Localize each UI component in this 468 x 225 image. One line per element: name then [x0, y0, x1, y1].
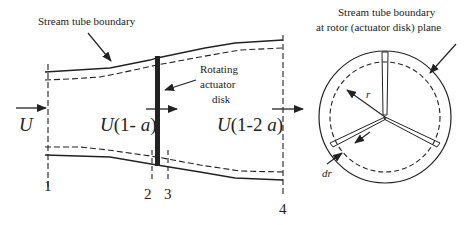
rotor-plane-label-line2: at rotor (actuator disk) plane	[316, 21, 441, 34]
station-3-label: 3	[164, 186, 172, 202]
disk-pointer-arrow-icon	[165, 80, 196, 90]
rotor-blades	[330, 52, 440, 147]
far-wake-velocity-label: U(1-2 a)	[217, 114, 283, 136]
disk-velocity-label: U(1- a)	[100, 114, 156, 136]
rotating-disk-label-line2: actuator	[200, 78, 236, 90]
rotor-plane-pointer-arrow-icon	[430, 44, 456, 73]
rotating-disk-label-line1: Rotating	[200, 63, 238, 75]
actuator-disk	[155, 56, 160, 166]
stream-tube-top-dashed	[45, 48, 283, 80]
radius-label: r	[366, 88, 371, 100]
station-2-label: 2	[144, 186, 152, 202]
upstream-velocity-label: U	[19, 114, 34, 135]
stream-tube-pointer-arrow-icon	[88, 33, 111, 61]
stream-tube-boundary-label: Stream tube boundary	[38, 15, 136, 27]
rotating-disk-label-line3: disk	[212, 93, 231, 105]
station-1-label: 1	[44, 178, 52, 194]
dr-outer-arrow-icon	[327, 153, 342, 164]
station-4-label: 4	[279, 201, 287, 217]
actuator-disk-diagram: Stream tube boundary 1 2 3 4 U U(1- a) R…	[0, 0, 468, 225]
dr-label: dr	[322, 167, 333, 179]
stream-tube-bottom-dashed	[45, 147, 283, 172]
stream-tube-top-boundary	[45, 40, 283, 72]
rotor-plane-label-line1: Stream tube boundary	[338, 6, 436, 18]
